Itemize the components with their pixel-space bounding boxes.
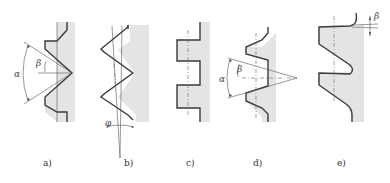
- panel-b-phi-symbol: φ: [105, 118, 112, 128]
- panel-a-alpha-arc: [23, 45, 28, 101]
- panel-c-cutout-top: [177, 22, 200, 40]
- panel-c-rectangular-thread: c): [177, 22, 210, 168]
- panel-e-beta-symbol: β: [373, 11, 379, 21]
- panel-a-beta-arc: [45, 61, 46, 72]
- panel-e-label: e): [337, 158, 346, 168]
- panel-a-alpha-symbol: α: [14, 69, 20, 79]
- panel-d-shaded-body: [246, 33, 276, 122]
- panel-a-triangular-thread: α β a): [14, 22, 75, 168]
- panel-d-trapezoidal-thread: α β d): [219, 27, 297, 168]
- panel-e-ref-line-1: [352, 24, 378, 25]
- panel-d-alpha-arc: [227, 59, 230, 97]
- panel-a-beta-symbol: β: [35, 58, 41, 68]
- panel-c-cutout-mid: [177, 61, 200, 85]
- panel-d-alpha-symbol: α: [219, 74, 225, 84]
- panel-d-beta-symbol: β: [236, 64, 242, 74]
- panel-c-cutout-bottom: [177, 108, 200, 122]
- panel-a-label: a): [43, 158, 52, 168]
- panel-b-helix-thread: φ b): [101, 25, 149, 168]
- thread-profiles-diagram: α β a) φ b) c): [0, 0, 390, 183]
- panel-c-label: c): [186, 158, 195, 168]
- panel-e-buttress-thread: β e): [318, 11, 379, 168]
- panel-b-label: b): [124, 158, 133, 168]
- panel-d-label: d): [253, 158, 262, 168]
- panel-b-axis-tilted: [112, 26, 120, 158]
